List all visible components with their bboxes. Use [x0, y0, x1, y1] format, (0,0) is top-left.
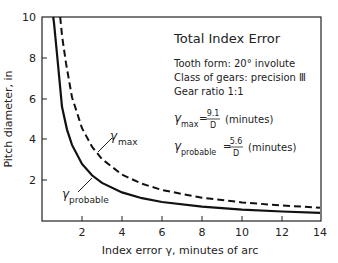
svg-text:9.1: 9.1 [207, 109, 220, 118]
x-axis-label: Index error γ, minutes of arc [102, 244, 259, 257]
formula-max: γ max = 9.1 D (minutes) [174, 109, 273, 130]
svg-text:5.6: 5.6 [230, 137, 243, 146]
svg-text:12: 12 [275, 226, 289, 239]
svg-text:Class of gears: precision Ⅲ: Class of gears: precision Ⅲ [174, 72, 306, 83]
svg-text:14: 14 [313, 226, 327, 239]
svg-text:max: max [181, 120, 199, 129]
gamma-max-label: γ max [110, 129, 138, 147]
svg-text:Gear ratio 1:1: Gear ratio 1:1 [174, 86, 244, 97]
plot-frame [42, 17, 321, 221]
formula-probable: γ probable = 5.6 D (minutes) [174, 137, 296, 158]
gear-specs: Tooth form: 20° involute Class of gears:… [173, 58, 306, 97]
svg-text:Tooth form: 20° involute: Tooth form: 20° involute [173, 58, 295, 69]
svg-text:(minutes): (minutes) [248, 142, 296, 153]
svg-text:4: 4 [119, 226, 126, 239]
svg-text:10: 10 [235, 226, 249, 239]
svg-text:D: D [210, 121, 216, 130]
gamma-probable-curve [53, 17, 320, 213]
y-axis [42, 58, 47, 180]
svg-text:4: 4 [29, 133, 36, 146]
svg-text:6: 6 [159, 226, 166, 239]
x-axis [82, 216, 282, 221]
svg-text:D: D [233, 149, 239, 158]
svg-text:probable: probable [69, 195, 109, 205]
svg-text:(minutes): (minutes) [225, 114, 273, 125]
svg-text:γ: γ [110, 129, 118, 143]
y-tick-labels: 2 4 6 8 10 [22, 11, 36, 187]
svg-text:8: 8 [199, 226, 206, 239]
gamma-probable-leader [78, 178, 92, 192]
x-tick-labels: 2 4 6 8 10 12 14 [79, 226, 328, 239]
svg-text:8: 8 [29, 52, 36, 65]
y-axis-label: Pitch diameter, in [2, 70, 15, 167]
chart-title: Total Index Error [173, 31, 281, 46]
chart: 2 4 6 8 10 2 4 6 8 10 12 14 Index error … [0, 0, 338, 263]
svg-text:max: max [118, 137, 138, 147]
svg-text:probable: probable [181, 148, 216, 157]
svg-text:6: 6 [29, 93, 36, 106]
svg-text:2: 2 [79, 226, 86, 239]
gamma-probable-label: γ probable [62, 187, 109, 205]
svg-text:10: 10 [22, 11, 36, 24]
svg-text:2: 2 [29, 174, 36, 187]
